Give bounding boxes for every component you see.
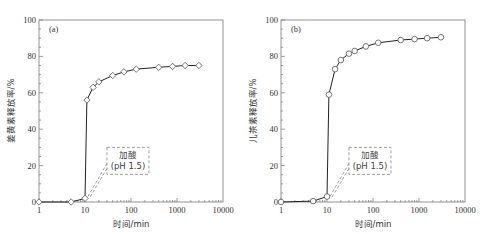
- data-point-circle: [438, 34, 444, 40]
- y-tick-label: 0: [274, 197, 278, 207]
- chart-panel-b: 020406080100110100100010000时间/min儿茶素释放率/…: [248, 15, 476, 229]
- y-tick-label: 40: [28, 124, 37, 134]
- y-tick-label: 80: [28, 51, 37, 61]
- data-point-diamond: [155, 64, 161, 70]
- annotation-text-line2: (pH 1.5): [353, 161, 388, 171]
- y-axis-title: 儿茶素释放率/%: [248, 79, 258, 144]
- y-tick-label: 60: [270, 88, 279, 98]
- y-tick-label: 20: [270, 161, 279, 171]
- annotation-pointer-line: [332, 168, 349, 197]
- x-tick-label: 100: [367, 205, 380, 215]
- data-point-circle: [278, 199, 284, 205]
- data-point-diamond: [84, 97, 90, 103]
- x-tick-label: 10: [323, 205, 332, 215]
- y-tick-label: 100: [23, 15, 36, 25]
- series-line: [39, 66, 199, 203]
- annotation-pointer-line: [90, 168, 107, 197]
- y-tick-label: 60: [28, 88, 37, 98]
- series-line: [281, 37, 441, 202]
- x-tick-label: 1000: [411, 205, 428, 215]
- data-point-circle: [338, 57, 344, 63]
- data-point-diamond: [68, 199, 74, 205]
- y-tick-label: 20: [28, 161, 37, 171]
- chart-panel-a: 020406080100110100100010000时间/min姜黄素释放率/…: [6, 15, 234, 229]
- data-point-circle: [346, 51, 352, 57]
- panel-label: (a): [49, 24, 59, 34]
- figure: 020406080100110100100010000时间/min姜黄素释放率/…: [0, 0, 484, 234]
- x-tick-label: 10000: [212, 205, 233, 215]
- annotation-text-line2: (pH 1.5): [111, 161, 146, 171]
- data-point-circle: [332, 66, 338, 72]
- data-point-circle: [310, 198, 316, 204]
- data-point-circle: [363, 44, 369, 50]
- data-point-circle: [412, 36, 418, 42]
- data-point-circle: [424, 35, 430, 41]
- x-tick-label: 1: [37, 205, 41, 215]
- panel-label: (b): [291, 24, 301, 34]
- data-point-diamond: [121, 69, 127, 75]
- x-tick-label: 1: [279, 205, 283, 215]
- annotation-text-line1: 加酸: [119, 150, 137, 160]
- data-point-diamond: [182, 62, 188, 68]
- data-point-circle: [398, 37, 404, 43]
- y-tick-label: 100: [265, 15, 278, 25]
- data-point-diamond: [133, 66, 139, 72]
- y-axis-title: 姜黄素释放率/%: [6, 79, 16, 144]
- data-point-diamond: [196, 62, 202, 68]
- data-point-diamond: [169, 63, 175, 69]
- data-point-diamond: [109, 72, 115, 78]
- data-point-circle: [352, 48, 358, 54]
- x-axis-title: 时间/min: [355, 219, 392, 229]
- x-tick-label: 10: [81, 205, 90, 215]
- x-tick-label: 10000: [454, 205, 475, 215]
- data-point-circle: [375, 40, 381, 46]
- y-tick-label: 80: [270, 51, 279, 61]
- annotation-text-line1: 加酸: [361, 150, 379, 160]
- x-tick-label: 100: [125, 205, 138, 215]
- data-point-circle: [326, 92, 332, 98]
- y-tick-label: 40: [270, 124, 279, 134]
- annotation-pointer-line: [330, 163, 349, 196]
- data-point-circle: [324, 194, 330, 200]
- annotation-pointer-line: [88, 163, 107, 196]
- x-tick-label: 1000: [169, 205, 186, 215]
- x-axis-title: 时间/min: [113, 219, 150, 229]
